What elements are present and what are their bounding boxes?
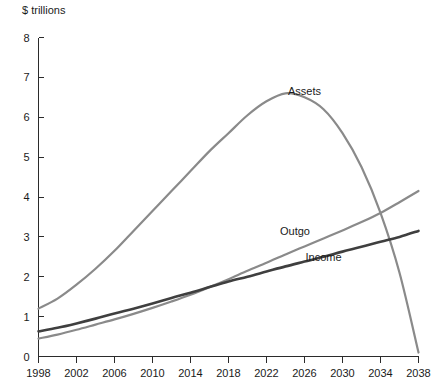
series-line-outgo (39, 191, 419, 339)
x-tick-label: 1998 (26, 367, 50, 379)
x-tick-label: 2026 (292, 367, 316, 379)
x-tick-label: 2018 (216, 367, 240, 379)
y-tick-label: 1 (23, 311, 29, 323)
y-tick-label: 4 (23, 191, 29, 203)
y-axis-ticks: 012345678 (23, 32, 43, 363)
x-tick-label: 2022 (254, 367, 278, 379)
x-tick-label: 2002 (64, 367, 88, 379)
y-tick-label: 2 (23, 271, 29, 283)
y-tick-label: 0 (23, 351, 29, 363)
x-tick-label: 2010 (140, 367, 164, 379)
series-label-outgo: Outgo (280, 225, 310, 237)
y-tick-label: 7 (23, 71, 29, 83)
y-tick-label: 5 (23, 151, 29, 163)
series-annotation-labels: AssetsOutgoIncome (280, 85, 342, 262)
chart-container: $ trillions 012345678 199820022006201020… (0, 0, 440, 386)
x-tick-label: 2038 (406, 367, 430, 379)
x-tick-label: 2006 (102, 367, 126, 379)
x-axis-ticks: 1998200220062010201420182022202620302034… (26, 357, 430, 379)
y-tick-label: 8 (23, 32, 29, 44)
series-line-income (39, 231, 419, 331)
y-tick-label: 3 (23, 231, 29, 243)
series-label-income: Income (305, 251, 341, 263)
line-chart-plot: 012345678 199820022006201020142018202220… (0, 0, 440, 386)
x-tick-label: 2030 (330, 367, 354, 379)
y-tick-label: 6 (23, 111, 29, 123)
x-tick-label: 2014 (178, 367, 202, 379)
x-tick-label: 2034 (368, 367, 392, 379)
series-label-assets: Assets (288, 85, 322, 97)
data-series-group (39, 93, 419, 352)
